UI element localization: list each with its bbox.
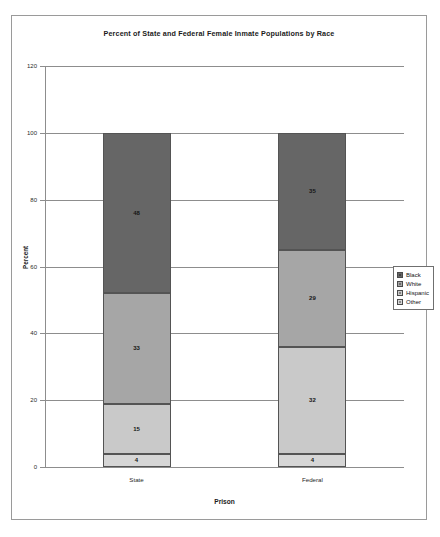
bar-segment-value: 4 (135, 457, 138, 463)
y-tick-label-80: 80 (30, 197, 37, 203)
legend-swatch-other-icon (397, 299, 403, 305)
legend-item-other[interactable]: Other (397, 297, 429, 306)
gridline-60 (45, 267, 404, 268)
y-tick-mark-100 (40, 133, 45, 134)
x-category-label-state: State (129, 476, 143, 483)
y-tick-label-40: 40 (30, 330, 37, 336)
gridline-0 (45, 467, 404, 468)
bar-segment-value: 48 (133, 210, 140, 216)
gridline-40 (45, 333, 404, 334)
figure-frame: Percent of State and Federal Female Inma… (11, 15, 427, 520)
bar-segment-value: 33 (133, 345, 140, 351)
chart-legend: BlackWhiteHispanicOther (393, 266, 434, 310)
gridline-80 (45, 200, 404, 201)
bar-segment-federal-white[interactable]: 29 (278, 250, 346, 347)
y-tick-mark-40 (40, 333, 45, 334)
bar-segment-value: 35 (309, 188, 316, 194)
bar-segment-federal-black[interactable]: 35 (278, 133, 346, 250)
legend-label: Black (406, 272, 421, 278)
bar-column-state[interactable]: 4153348State (103, 66, 171, 467)
bar-segment-value: 32 (309, 397, 316, 403)
y-tick-mark-0 (40, 467, 45, 468)
plot-area: 020406080100120 4153348State4322935Feder… (45, 66, 404, 468)
legend-label: Other (406, 299, 421, 305)
bar-segment-federal-hispanic[interactable]: 32 (278, 347, 346, 454)
bar-segment-value: 29 (309, 295, 316, 301)
legend-swatch-hispanic-icon (397, 290, 403, 296)
bar-segment-state-other[interactable]: 4 (103, 454, 171, 467)
legend-item-white[interactable]: White (397, 279, 429, 288)
y-tick-mark-20 (40, 400, 45, 401)
gridline-100 (45, 133, 404, 134)
legend-swatch-black-icon (397, 272, 403, 278)
bar-segment-value: 4 (311, 457, 314, 463)
x-axis-title: Prison (45, 498, 404, 505)
legend-item-hispanic[interactable]: Hispanic (397, 288, 429, 297)
y-tick-label-100: 100 (27, 130, 37, 136)
y-tick-label-0: 0 (34, 464, 37, 470)
bar-segment-state-black[interactable]: 48 (103, 133, 171, 293)
legend-label: Hispanic (406, 290, 429, 296)
y-tick-mark-120 (40, 66, 45, 67)
bar-segment-value: 15 (133, 426, 140, 432)
legend-label: White (406, 281, 421, 287)
y-axis-title: Percent (22, 246, 29, 269)
y-tick-label-20: 20 (30, 397, 37, 403)
bar-segment-state-white[interactable]: 33 (103, 293, 171, 403)
y-tick-label-120: 120 (27, 63, 37, 69)
x-category-label-federal: Federal (302, 476, 323, 483)
y-tick-mark-80 (40, 200, 45, 201)
y-tick-label-60: 60 (30, 264, 37, 270)
bar-segment-federal-other[interactable]: 4 (278, 454, 346, 467)
y-tick-mark-60 (40, 267, 45, 268)
bar-column-federal[interactable]: 4322935Federal (278, 66, 346, 467)
gridline-120 (45, 66, 404, 67)
gridline-20 (45, 400, 404, 401)
bar-segment-state-hispanic[interactable]: 15 (103, 404, 171, 454)
legend-item-black[interactable]: Black (397, 270, 429, 279)
chart-title: Percent of State and Federal Female Inma… (12, 29, 426, 38)
legend-swatch-white-icon (397, 281, 403, 287)
